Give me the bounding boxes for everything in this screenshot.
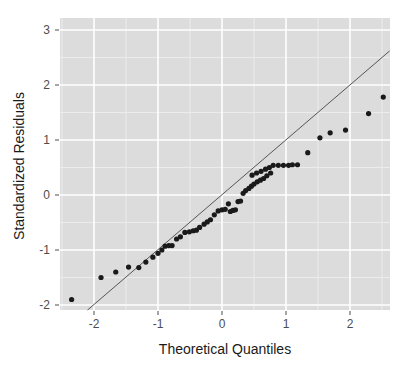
data-point	[268, 170, 273, 175]
data-point	[197, 225, 202, 230]
data-point	[317, 135, 322, 140]
x-tick-label: -1	[153, 317, 164, 331]
data-point	[366, 111, 371, 116]
data-point	[212, 212, 217, 217]
y-tick-label: -2	[39, 298, 50, 312]
data-point	[126, 264, 131, 269]
data-point	[136, 265, 141, 270]
data-point	[226, 201, 231, 206]
data-point	[113, 269, 118, 274]
y-tick-label: 1	[43, 133, 50, 147]
data-point	[295, 162, 300, 167]
data-point	[381, 95, 386, 100]
data-point	[223, 207, 228, 212]
data-point	[271, 163, 276, 168]
y-tick-label: 0	[43, 188, 50, 202]
data-point	[258, 169, 263, 174]
x-tick-label: 0	[219, 317, 226, 331]
data-point	[305, 150, 310, 155]
y-tick-label: 3	[43, 23, 50, 37]
data-point	[343, 128, 348, 133]
data-point	[233, 207, 238, 212]
plot-panel-background	[60, 18, 390, 310]
y-tick-label: -1	[39, 243, 50, 257]
data-point	[281, 163, 286, 168]
plot-canvas: -2-1012 -2-10123 Theoretical Quantiles S…	[0, 0, 406, 378]
y-tick-label: 2	[43, 78, 50, 92]
x-tick-label: 2	[347, 317, 354, 331]
data-point	[249, 173, 254, 178]
data-point	[169, 243, 174, 248]
data-point	[290, 162, 295, 167]
data-point	[254, 170, 259, 175]
data-point	[178, 234, 183, 239]
data-point	[276, 163, 281, 168]
data-point	[208, 217, 213, 222]
data-point	[150, 255, 155, 260]
data-point	[238, 198, 243, 203]
y-axis-title: Standardized Residuals	[11, 92, 27, 240]
data-point	[182, 230, 187, 235]
x-tick-label: 1	[283, 317, 290, 331]
qq-plot-figure: -2-1012 -2-10123 Theoretical Quantiles S…	[0, 0, 406, 378]
data-point	[143, 260, 148, 265]
x-axis-title: Theoretical Quantiles	[159, 341, 291, 357]
data-point	[328, 130, 333, 135]
x-tick-label: -2	[89, 317, 100, 331]
data-point	[69, 297, 74, 302]
data-point	[98, 275, 103, 280]
